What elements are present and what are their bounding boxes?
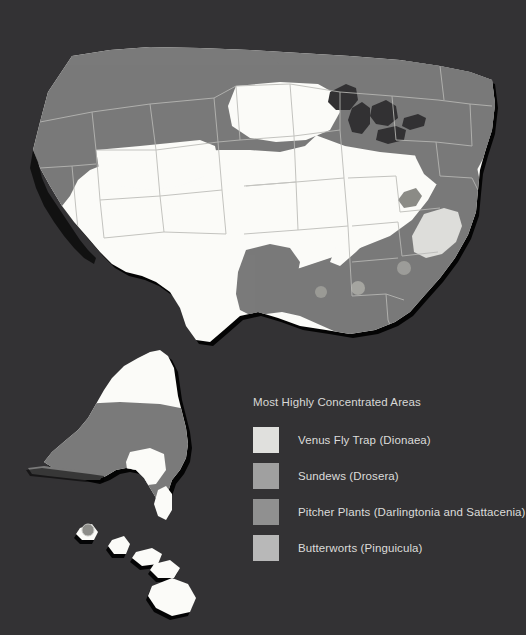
- accent-gulf-coast-3: [315, 286, 327, 298]
- hawaii-accent-kauai: [82, 524, 94, 536]
- legend-item-sundews[interactable]: Sundews (Drosera): [253, 458, 514, 494]
- legend-swatch-pitcher-plants: [253, 499, 279, 525]
- alaska-inset: [26, 350, 192, 520]
- legend-item-venus-fly-trap[interactable]: Venus Fly Trap (Dionaea): [253, 422, 514, 458]
- accent-gulf-coast-2: [351, 281, 365, 295]
- legend-title: Most Highly Concentrated Areas: [253, 396, 514, 408]
- legend-swatch-sundews: [253, 463, 279, 489]
- legend-label-pitcher-plants: Pitcher Plants (Darlingtonia and Sattace…: [298, 506, 526, 518]
- hawaii-islands: [76, 524, 196, 616]
- hawaii-inset: [74, 524, 196, 620]
- contiguous-us: [28, 44, 500, 346]
- legend: Most Highly Concentrated Areas Venus Fly…: [253, 396, 514, 566]
- legend-label-butterworts: Butterworts (Pinguicula): [298, 542, 422, 554]
- legend-item-butterworts[interactable]: Butterworts (Pinguicula): [253, 530, 514, 566]
- legend-swatch-venus-fly-trap: [253, 427, 279, 453]
- legend-label-venus-fly-trap: Venus Fly Trap (Dionaea): [298, 434, 431, 446]
- legend-swatch-butterworts: [253, 535, 279, 561]
- legend-label-sundews: Sundews (Drosera): [298, 470, 399, 482]
- alaska-shaded-region: [38, 402, 192, 502]
- accent-gulf-coast-1: [397, 261, 411, 275]
- legend-item-pitcher-plants[interactable]: Pitcher Plants (Darlingtonia and Sattace…: [253, 494, 514, 530]
